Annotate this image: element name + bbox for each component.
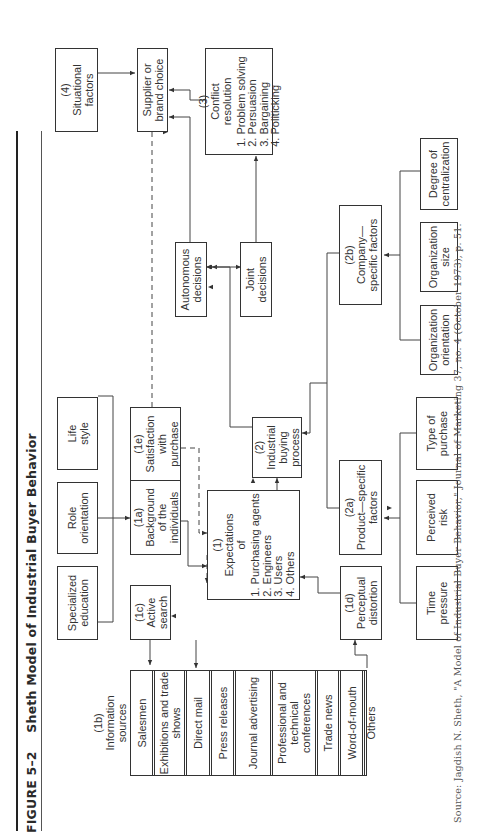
active-search-box: (1c) Active search xyxy=(130,585,171,640)
info-sources-label: Information sources xyxy=(104,688,128,758)
info-source-item: Direct mail xyxy=(187,671,212,775)
type-of-purchase-label: Type of purchase xyxy=(425,406,449,462)
company-specific-label: Company—specific factors xyxy=(355,209,379,301)
life-style-box: Life style xyxy=(57,397,98,470)
product-specific-code: (2a) xyxy=(343,498,355,518)
perceptual-distortion-box: (1d) Perceptual distortion xyxy=(340,566,382,640)
info-source-item: Journal advertising xyxy=(236,671,273,775)
role-orientation-box: Role orientation xyxy=(57,482,98,554)
satisfaction-box: (1e) Satisfaction with purchase xyxy=(130,407,181,481)
industrial-buying-process-label: Industrial buying process xyxy=(265,422,301,474)
specialized-education-label: Specialized education xyxy=(66,572,90,634)
time-pressure-label: Time pressure xyxy=(425,578,449,628)
life-style-label: Life style xyxy=(66,419,90,449)
source-citation: Source: Jagdish N. Sheth, "A Model of In… xyxy=(452,3,463,823)
degree-of-centralization-label: Degree of centralization xyxy=(427,139,451,209)
conflict-resolution-list: Problem solving Persuasion Bargaining Po… xyxy=(236,56,282,147)
expectations-item: Purchasing agents xyxy=(250,493,262,596)
active-search-code: (1c) xyxy=(133,603,145,622)
conflict-resolution-code: (3) xyxy=(197,95,209,108)
perceptual-distortion-label: Perceptual distortion xyxy=(355,573,379,633)
situational-factors-box: (4) Situational factors xyxy=(55,48,98,132)
satisfaction-label: Satisfaction with purchase xyxy=(144,414,180,474)
conflict-resolution-item: Politicking xyxy=(270,56,282,147)
autonomous-decisions-box: Autonomous decisions xyxy=(175,242,207,317)
joint-decisions-label: Joint decisions xyxy=(244,252,268,307)
info-source-item: Exhibitions and trade shows xyxy=(155,671,187,775)
role-orientation-label: Role orientation xyxy=(66,488,90,548)
background-label: Background of the individuals xyxy=(144,486,180,550)
info-sources-title: (1b) Information sources xyxy=(92,670,128,776)
expectations-item: Users xyxy=(273,493,285,596)
joint-decisions-box: Joint decisions xyxy=(240,242,272,317)
situational-factors-code: (4) xyxy=(59,83,71,96)
conflict-resolution-item: Persuasion xyxy=(247,56,259,147)
info-sources-list: Salesmen Exhibitions and trade shows Dir… xyxy=(130,670,367,776)
info-source-item: Professional and technical conferences xyxy=(273,671,318,775)
info-source-item: Salesmen xyxy=(131,671,155,775)
perceptual-distortion-code: (1d) xyxy=(343,593,355,613)
conflict-resolution-label: Conflict resolution xyxy=(209,67,233,137)
product-specific-factors-box: (2a) Product—specific factors xyxy=(339,460,382,555)
company-specific-factors-box: (2b) Company—specific factors xyxy=(339,205,382,305)
info-sources-code: (1b) xyxy=(92,670,104,776)
industrial-buying-process-box: (2) Industrial buying process xyxy=(252,417,302,478)
info-source-item: Word-of-mouth xyxy=(341,671,365,775)
product-specific-label: Product—specific factors xyxy=(355,464,379,552)
active-search-label: Active search xyxy=(145,592,169,634)
situational-factors-label: Situational factors xyxy=(71,60,95,120)
supplier-choice-label: Supplier or brand choice xyxy=(141,50,165,130)
conflict-resolution-box: (3) Conflict resolution Problem solving … xyxy=(205,48,273,155)
autonomous-decisions-label: Autonomous decisions xyxy=(179,245,203,315)
supplier-choice-box: Supplier or brand choice xyxy=(137,48,168,132)
expectations-code: (1) xyxy=(211,538,223,551)
diagram-canvas: FIGURE 5–2 Sheth Model of Industrial Buy… xyxy=(0,0,479,833)
info-source-item: Trade news xyxy=(318,671,341,775)
info-source-item: Others xyxy=(365,671,377,775)
background-code: (1a) xyxy=(132,508,144,528)
company-specific-code: (2b) xyxy=(343,245,355,265)
expectations-label: Expectations of xyxy=(223,510,247,580)
perceived-risk-label: Perceived risk xyxy=(425,491,449,545)
background-box: (1a) Background of the individuals xyxy=(130,480,181,555)
expectations-item: Others xyxy=(285,493,297,596)
industrial-buying-process-code: (2) xyxy=(253,441,265,454)
info-source-item: Press releases xyxy=(212,671,236,775)
organization-size-label: Organization size xyxy=(427,224,451,290)
satisfaction-code: (1e) xyxy=(132,434,144,454)
specialized-education-box: Specialized education xyxy=(57,566,98,640)
expectations-list: Purchasing agents Engineers Users Others xyxy=(250,493,296,596)
organization-orientation-label: Organization orientation xyxy=(427,307,451,373)
expectations-box: (1) Expectations of Purchasing agents En… xyxy=(207,490,300,600)
